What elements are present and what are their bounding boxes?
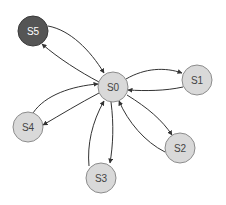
node-s0: S0 [98, 72, 128, 102]
edge-s2-s0 [119, 101, 165, 152]
edge-s3-s0 [89, 101, 104, 166]
edge-s1-s0 [128, 87, 183, 91]
edge-s0-s1 [126, 69, 182, 79]
node-s3: S3 [86, 163, 116, 193]
node-s3-label: S3 [95, 173, 108, 184]
edge-s5-s0 [48, 26, 104, 73]
node-s4: S4 [13, 112, 43, 142]
edge-s0-s3 [110, 102, 113, 163]
edge-s0-s5 [42, 44, 99, 82]
node-s2: S2 [165, 133, 195, 163]
node-s5: S5 [18, 16, 48, 46]
node-s1: S1 [182, 65, 212, 95]
node-s4-label: S4 [22, 122, 35, 133]
node-s0-label: S0 [107, 82, 120, 93]
node-s5-label: S5 [27, 26, 40, 37]
edge-s0-s4 [43, 93, 99, 125]
edge-s0-s2 [127, 95, 172, 135]
state-diagram: S0 S1 S2 S3 S4 S5 [0, 0, 226, 205]
node-s2-label: S2 [174, 143, 187, 154]
node-s1-label: S1 [191, 75, 204, 86]
